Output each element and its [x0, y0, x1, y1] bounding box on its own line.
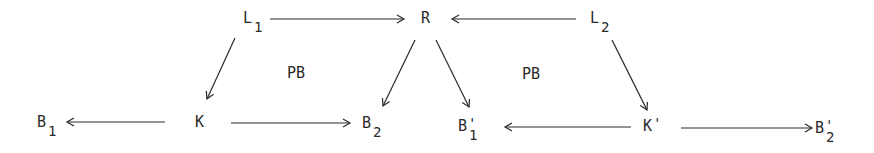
node-B2p: B'2 [815, 117, 834, 145]
pushout-label-right: PB [522, 65, 540, 83]
node-L2: L2 [590, 9, 609, 35]
node-base-letter: B [37, 113, 46, 131]
arrow-R-to-B1p [436, 40, 469, 107]
node-base-letter: R [421, 9, 431, 27]
arrow-L2-to-Kp [612, 40, 647, 110]
node-subscript: 2 [826, 129, 834, 145]
node-subscript: 1 [469, 127, 477, 143]
node-base-letter: L [243, 9, 252, 27]
node-B1p: B'1 [458, 115, 477, 143]
node-B1: B1 [37, 113, 56, 139]
node-base-letter: B [362, 114, 371, 132]
node-subscript: 2 [373, 124, 381, 140]
node-K: K [195, 113, 204, 131]
node-Kp: K' [643, 115, 661, 135]
nodes-group: L1RL2B1KB2B'1K'B'2 [37, 9, 834, 145]
arrow-L1-to-K [207, 38, 235, 99]
arrow-R-to-B2 [383, 40, 415, 106]
node-base-letter: B [815, 119, 824, 137]
pushout-label-left: PB [287, 64, 305, 82]
node-L1: L1 [243, 9, 262, 35]
pushout-diagram: L1RL2B1KB2B'1K'B'2 PBPB [0, 0, 874, 153]
node-R: R [421, 9, 431, 27]
annotations-group: PBPB [287, 64, 540, 83]
node-base-letter: K [643, 117, 652, 135]
edges-group [67, 19, 812, 128]
node-subscript: 2 [601, 19, 609, 35]
node-subscript: 1 [254, 19, 262, 35]
node-subscript: 1 [48, 123, 56, 139]
node-prime: ' [653, 115, 661, 131]
node-base-letter: K [195, 113, 204, 131]
node-B2: B2 [362, 114, 381, 140]
node-base-letter: B [458, 117, 467, 135]
node-base-letter: L [590, 9, 599, 27]
